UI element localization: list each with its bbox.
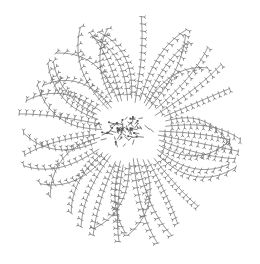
arm	[146, 160, 179, 227]
molecule-diagram	[0, 0, 260, 264]
arm	[113, 165, 124, 243]
arm	[26, 89, 101, 111]
arm	[155, 63, 225, 116]
dendrimer-arms	[18, 16, 241, 246]
arm	[98, 27, 113, 99]
dendrimer-core	[94, 116, 154, 147]
arm	[37, 154, 108, 187]
arm	[144, 41, 193, 103]
arm	[123, 160, 151, 237]
arm	[135, 16, 147, 103]
arm	[154, 159, 200, 211]
arm	[21, 148, 99, 171]
